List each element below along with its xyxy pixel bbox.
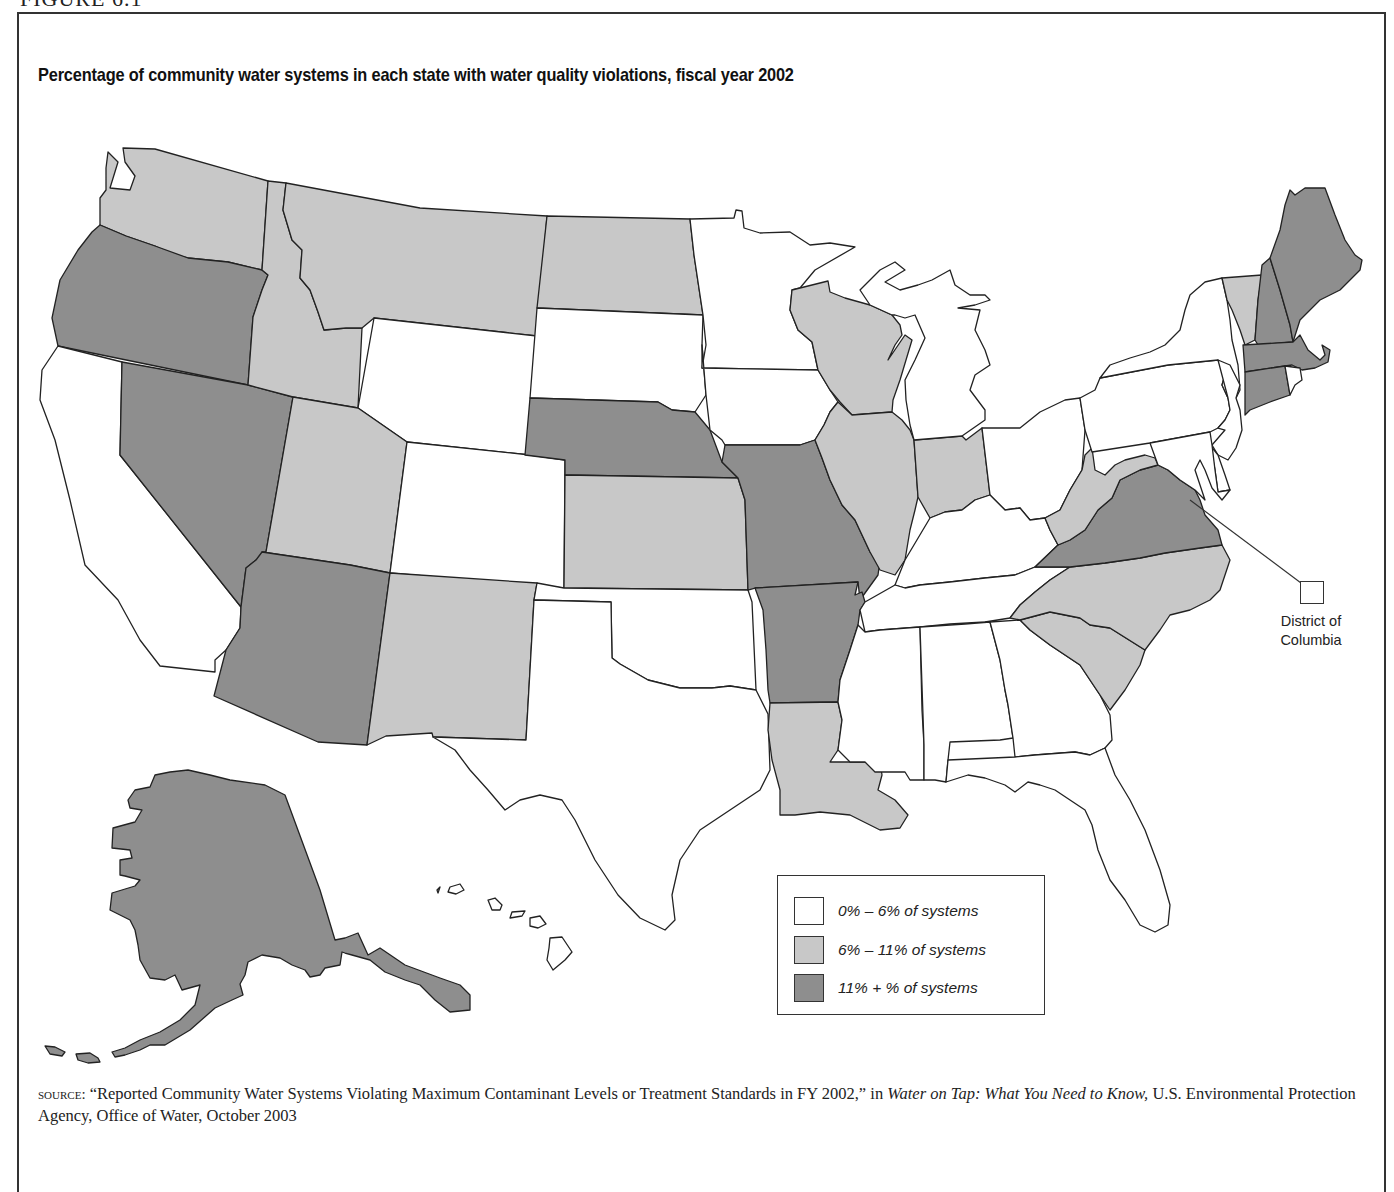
- state-NM[interactable]: [367, 573, 537, 745]
- source-publication: Water on Tap: What You Need to Know,: [887, 1084, 1148, 1103]
- source-citation: SOURCE: “Reported Community Water System…: [38, 1083, 1368, 1126]
- dc-label: District of Columbia: [1266, 612, 1356, 650]
- state-HI-niihau: [437, 887, 440, 893]
- legend-label-mid: 6% – 11% of systems: [838, 941, 986, 959]
- legend-label-high: 11% + % of systems: [838, 979, 978, 997]
- ak-island-1: [45, 1046, 65, 1056]
- dc-swatch: [1300, 581, 1324, 604]
- state-MT[interactable]: [283, 183, 547, 336]
- legend-label-low: 0% – 6% of systems: [838, 902, 978, 920]
- source-prefix: SOURCE:: [38, 1086, 86, 1102]
- state-KS[interactable]: [564, 475, 748, 590]
- state-HI-oahu[interactable]: [488, 898, 502, 910]
- state-CT[interactable]: [1245, 366, 1290, 415]
- ak-island-2: [76, 1053, 100, 1063]
- state-HI-molokai[interactable]: [510, 911, 525, 918]
- state-HI-kauai[interactable]: [448, 884, 464, 894]
- legend-item-low: 0% – 6% of systems: [794, 896, 978, 926]
- legend-swatch-mid: [794, 936, 824, 964]
- state-AK[interactable]: [110, 770, 470, 1057]
- state-HI-big[interactable]: [547, 937, 572, 970]
- state-HI-maui[interactable]: [530, 916, 546, 928]
- legend-item-mid: 6% – 11% of systems: [794, 935, 986, 965]
- dc-label-line1: District of: [1266, 612, 1356, 631]
- source-quote: “Reported Community Water Systems Violat…: [90, 1084, 888, 1103]
- dc-label-line2: Columbia: [1266, 631, 1356, 650]
- state-CO[interactable]: [390, 442, 565, 588]
- legend-swatch-high: [794, 974, 824, 1002]
- state-MS[interactable]: [838, 625, 924, 780]
- legend: 0% – 6% of systems 6% – 11% of systems 1…: [777, 875, 1045, 1015]
- legend-item-high: 11% + % of systems: [794, 973, 978, 1003]
- legend-swatch-low: [794, 897, 824, 925]
- state-SD[interactable]: [530, 308, 706, 412]
- state-ND[interactable]: [537, 216, 703, 315]
